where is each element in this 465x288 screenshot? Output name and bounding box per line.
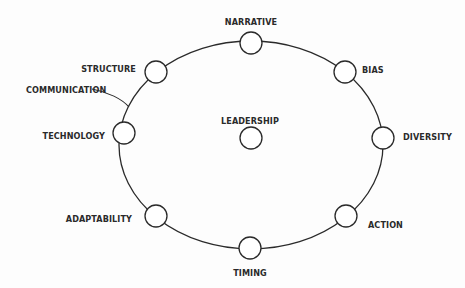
node-label: TIMING — [233, 268, 267, 278]
node-structure[interactable]: STRUCTURE — [81, 61, 167, 83]
node-label: STRUCTURE — [81, 64, 136, 74]
node-label: TECHNOLOGY — [43, 131, 105, 141]
node-bias[interactable]: BIAS — [334, 61, 384, 83]
node-label: NARRATIVE — [225, 17, 277, 27]
node-label: ADAPTABILITY — [66, 214, 132, 224]
center-node-leadership[interactable] — [240, 127, 262, 149]
node-diversity[interactable]: DIVERSITY — [372, 127, 452, 149]
diagram-canvas: COMMUNICATION LEADERSHIP NARRATIVE BIAS … — [0, 0, 465, 288]
node-label: DIVERSITY — [403, 132, 452, 142]
node-label: BIAS — [362, 65, 384, 75]
center-label: LEADERSHIP — [221, 116, 279, 126]
node-narrative[interactable]: NARRATIVE — [225, 17, 277, 54]
node-action[interactable]: ACTION — [335, 205, 403, 230]
node-label: ACTION — [368, 220, 403, 230]
node-technology[interactable]: TECHNOLOGY — [43, 122, 135, 144]
node-adaptability[interactable]: ADAPTABILITY — [66, 205, 167, 227]
node-timing[interactable]: TIMING — [233, 237, 267, 278]
